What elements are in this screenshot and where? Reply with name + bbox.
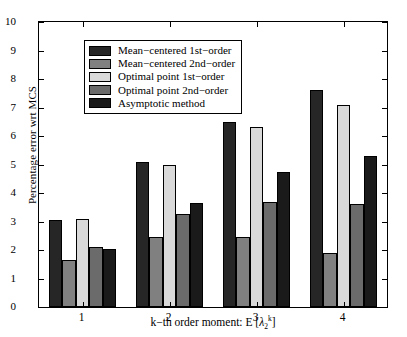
y-tick-mark-right: [382, 108, 387, 109]
x-tick-mark: [170, 302, 171, 307]
y-tick-label: 8: [0, 72, 16, 84]
y-tick-mark-right: [382, 193, 387, 194]
legend-label: Optimal point 2nd−order: [118, 85, 228, 96]
bar: [350, 204, 364, 307]
x-tick-mark-top: [344, 22, 345, 27]
y-tick-label: 0: [0, 300, 16, 312]
y-tick-mark-right: [382, 307, 387, 308]
y-tick-label: 4: [0, 186, 16, 198]
y-tick-mark-right: [382, 79, 387, 80]
bar: [190, 203, 204, 307]
x-tick-mark: [344, 302, 345, 307]
x-tick-label: 3: [236, 311, 276, 323]
legend-swatch-icon: [89, 59, 111, 69]
figure: Percentage error wrt MCS k−th order mome…: [0, 0, 407, 337]
legend-swatch-icon: [89, 72, 111, 82]
legend-label: Mean−centered 1st−order: [118, 45, 232, 56]
x-tick-label: 4: [323, 311, 363, 323]
y-tick-mark: [39, 22, 44, 23]
plot-area: Mean−centered 1st−orderMean−centered 2nd…: [38, 21, 388, 308]
bar: [250, 127, 264, 307]
y-tick-mark: [39, 51, 44, 52]
y-tick-mark: [39, 108, 44, 109]
bar: [323, 253, 337, 307]
legend-swatch-icon: [89, 98, 111, 108]
y-tick-label: 9: [0, 44, 16, 56]
legend-label: Asymptotic method: [118, 98, 205, 109]
x-tick-mark: [257, 302, 258, 307]
y-tick-mark: [39, 307, 44, 308]
y-tick-mark: [39, 165, 44, 166]
bar: [364, 156, 378, 307]
legend-swatch-icon: [89, 46, 111, 56]
legend-label: Optimal point 1st−order: [118, 71, 224, 82]
y-tick-mark-right: [382, 222, 387, 223]
x-tick-mark: [83, 302, 84, 307]
y-tick-mark: [39, 279, 44, 280]
bar: [76, 219, 90, 307]
y-tick-mark-right: [382, 136, 387, 137]
y-tick-label: 3: [0, 215, 16, 227]
y-tick-label: 10: [0, 15, 16, 27]
lambda-subscript: 2: [264, 322, 268, 331]
bar: [263, 202, 277, 307]
y-tick-mark: [39, 193, 44, 194]
y-tick-mark: [39, 222, 44, 223]
y-tick-mark-right: [382, 165, 387, 166]
y-tick-mark-right: [382, 250, 387, 251]
legend: Mean−centered 1st−orderMean−centered 2nd…: [84, 40, 242, 114]
legend-label: Mean−centered 2nd−order: [118, 58, 235, 69]
y-tick-mark-right: [382, 51, 387, 52]
y-tick-label: 7: [0, 101, 16, 113]
y-tick-mark: [39, 136, 44, 137]
y-tick-mark-right: [382, 279, 387, 280]
y-tick-label: 6: [0, 129, 16, 141]
x-tick-mark-top: [170, 22, 171, 27]
x-tick-label: 2: [149, 311, 189, 323]
legend-item: Mean−centered 2nd−order: [89, 57, 235, 70]
bar: [223, 122, 237, 307]
bar: [337, 105, 351, 307]
y-tick-label: 2: [0, 243, 16, 255]
y-tick-mark: [39, 79, 44, 80]
bar: [136, 162, 150, 307]
y-axis-title: Percentage error wrt MCS: [26, 55, 38, 235]
x-tick-label: 1: [62, 311, 102, 323]
bar: [49, 220, 63, 307]
y-tick-mark: [39, 250, 44, 251]
y-tick-mark-right: [382, 22, 387, 23]
bar: [103, 249, 117, 307]
bar: [176, 214, 190, 307]
legend-swatch-icon: [89, 85, 111, 95]
legend-item: Asymptotic method: [89, 97, 235, 110]
bar: [310, 90, 324, 307]
x-tick-mark-top: [83, 22, 84, 27]
bar: [62, 260, 76, 307]
x-tick-mark-top: [257, 22, 258, 27]
legend-item: Optimal point 1st−order: [89, 70, 235, 83]
bar: [149, 237, 163, 307]
bar: [236, 237, 250, 307]
legend-item: Optimal point 2nd−order: [89, 84, 235, 97]
bar: [163, 165, 177, 308]
legend-item: Mean−centered 1st−order: [89, 44, 235, 57]
bar: [277, 172, 291, 307]
y-tick-label: 5: [0, 158, 16, 170]
y-tick-label: 1: [0, 272, 16, 284]
bar: [89, 247, 103, 307]
